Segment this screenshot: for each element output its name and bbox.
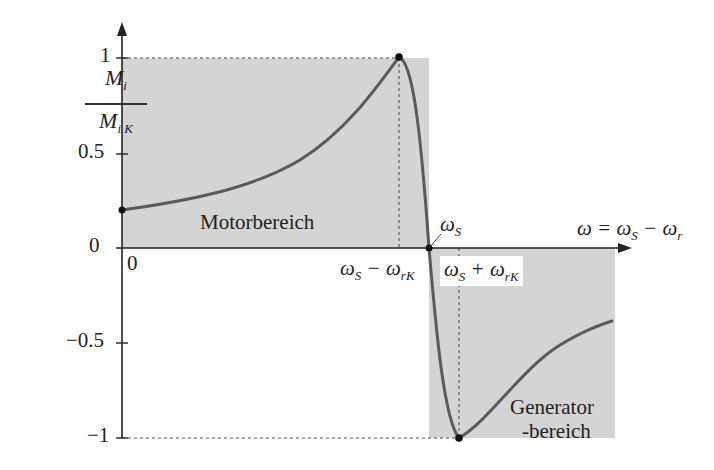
y-tick-label-1: 1 bbox=[100, 43, 111, 68]
ws-label: ωS bbox=[440, 212, 461, 240]
y-tick-label-0: 0 bbox=[89, 233, 100, 258]
x-axis-label: ω = ωS − ωr bbox=[577, 216, 682, 244]
peak-point bbox=[395, 53, 403, 61]
x-tick-label-0: 0 bbox=[127, 251, 138, 276]
motor-region-label: Motorbereich bbox=[200, 210, 314, 235]
y-tick-label-m1: −1 bbox=[87, 423, 109, 448]
min-point bbox=[455, 434, 463, 442]
ws-minus-wrk-label: ωS − ωrK bbox=[340, 256, 415, 284]
ws-plus-wrk-label: ωS + ωrK bbox=[440, 256, 523, 286]
y-axis-arrow-icon bbox=[117, 22, 127, 36]
start-point bbox=[119, 207, 126, 214]
fraction-bar bbox=[85, 103, 147, 105]
y-tick-label-m05: −0.5 bbox=[66, 328, 104, 353]
generator-region-label-2: -bereich bbox=[522, 419, 591, 444]
y-tick-label-05: 0.5 bbox=[78, 139, 104, 164]
generator-region-label-1: Generator bbox=[510, 395, 594, 420]
x-axis-arrow-icon bbox=[618, 243, 632, 253]
y-axis-label: Mi Mi K bbox=[85, 65, 147, 142]
